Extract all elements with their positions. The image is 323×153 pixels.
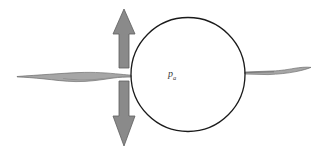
pressure-label: pa bbox=[168, 69, 176, 82]
membrane-right-ribbon bbox=[245, 67, 311, 74]
arrow-up-icon bbox=[113, 9, 135, 68]
arrow-down-icon bbox=[113, 81, 135, 146]
bubble-outline bbox=[131, 18, 245, 132]
figure-canvas: pa bbox=[0, 0, 323, 153]
figure-drawing bbox=[0, 0, 323, 153]
pressure-subscript: a bbox=[173, 74, 176, 81]
